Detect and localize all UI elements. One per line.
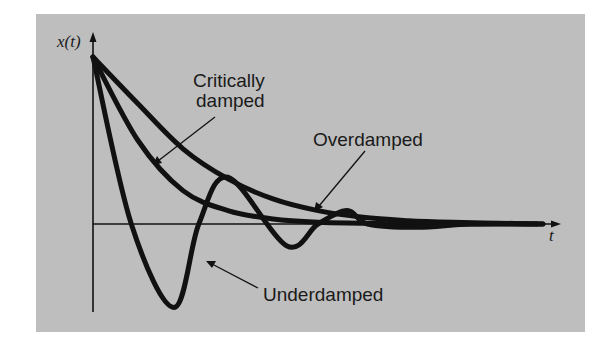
y-axis-label: x(t) (56, 32, 81, 51)
critically-damped-arrow (153, 117, 215, 165)
underdamped-label: Underdamped (263, 284, 383, 305)
overdamped-arrow (314, 151, 365, 212)
underdamped-curve (93, 57, 537, 308)
underdamped-arrow (206, 261, 258, 288)
x-axis-label: t (549, 226, 555, 245)
critically-damped-label: Critically (193, 70, 265, 91)
y-axis-arrow-icon (90, 32, 97, 42)
overdamped-label: Overdamped (313, 129, 423, 150)
critically-damped-label-line2: damped (196, 90, 265, 111)
damping-chart: x(t) t Critically damped Overdamped Unde… (0, 0, 616, 345)
